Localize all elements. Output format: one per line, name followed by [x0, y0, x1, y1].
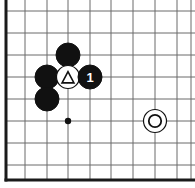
- white-stone-triangle[interactable]: [57, 66, 80, 89]
- go-board[interactable]: 1: [0, 0, 195, 188]
- black-stone[interactable]: [35, 87, 59, 111]
- black-stone[interactable]: [35, 65, 59, 89]
- white-stone-disc: [57, 66, 80, 89]
- black-stone-disc: [35, 65, 59, 89]
- black-stone-disc: [35, 87, 59, 111]
- white-stone-disc: [144, 110, 167, 133]
- black-stone-numbered[interactable]: 1: [78, 65, 102, 89]
- go-board-canvas[interactable]: 1: [0, 0, 195, 188]
- black-stone[interactable]: [56, 43, 80, 67]
- black-stone-disc: [56, 43, 80, 67]
- star-point: [65, 118, 71, 124]
- board-background: [0, 0, 195, 188]
- white-stone-circle[interactable]: [144, 110, 167, 133]
- stone-move-number: 1: [86, 70, 93, 85]
- star-points: [65, 118, 71, 124]
